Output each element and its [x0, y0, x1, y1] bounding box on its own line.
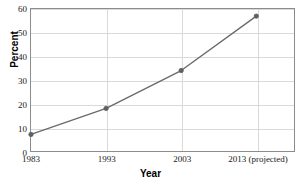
- y-tick-label: 30: [18, 76, 27, 86]
- x-tick-label: 2013 (projected): [228, 154, 288, 164]
- y-tick-label: 40: [18, 52, 27, 62]
- chart-figure: Percent 0102030405060 1983199320032013 (…: [0, 0, 301, 185]
- data-point: [104, 106, 108, 110]
- x-tick-label: 1983: [22, 154, 40, 164]
- y-tick-label: 60: [18, 4, 27, 14]
- data-point: [254, 14, 258, 18]
- plot-area: 0102030405060 1983199320032013 (projecte…: [30, 8, 295, 152]
- y-tick-label: 10: [18, 124, 27, 134]
- x-tick-label: 1993: [98, 154, 116, 164]
- y-tick-label: 20: [18, 100, 27, 110]
- x-tick-label: 2003: [173, 154, 191, 164]
- data-point: [179, 68, 183, 72]
- y-axis-title: Percent: [9, 14, 20, 86]
- series-markers: [29, 14, 259, 137]
- data-point: [29, 132, 33, 136]
- y-tick-label: 50: [18, 28, 27, 38]
- series-line: [31, 16, 256, 134]
- x-axis-title: Year: [0, 168, 301, 179]
- data-series: [31, 9, 294, 151]
